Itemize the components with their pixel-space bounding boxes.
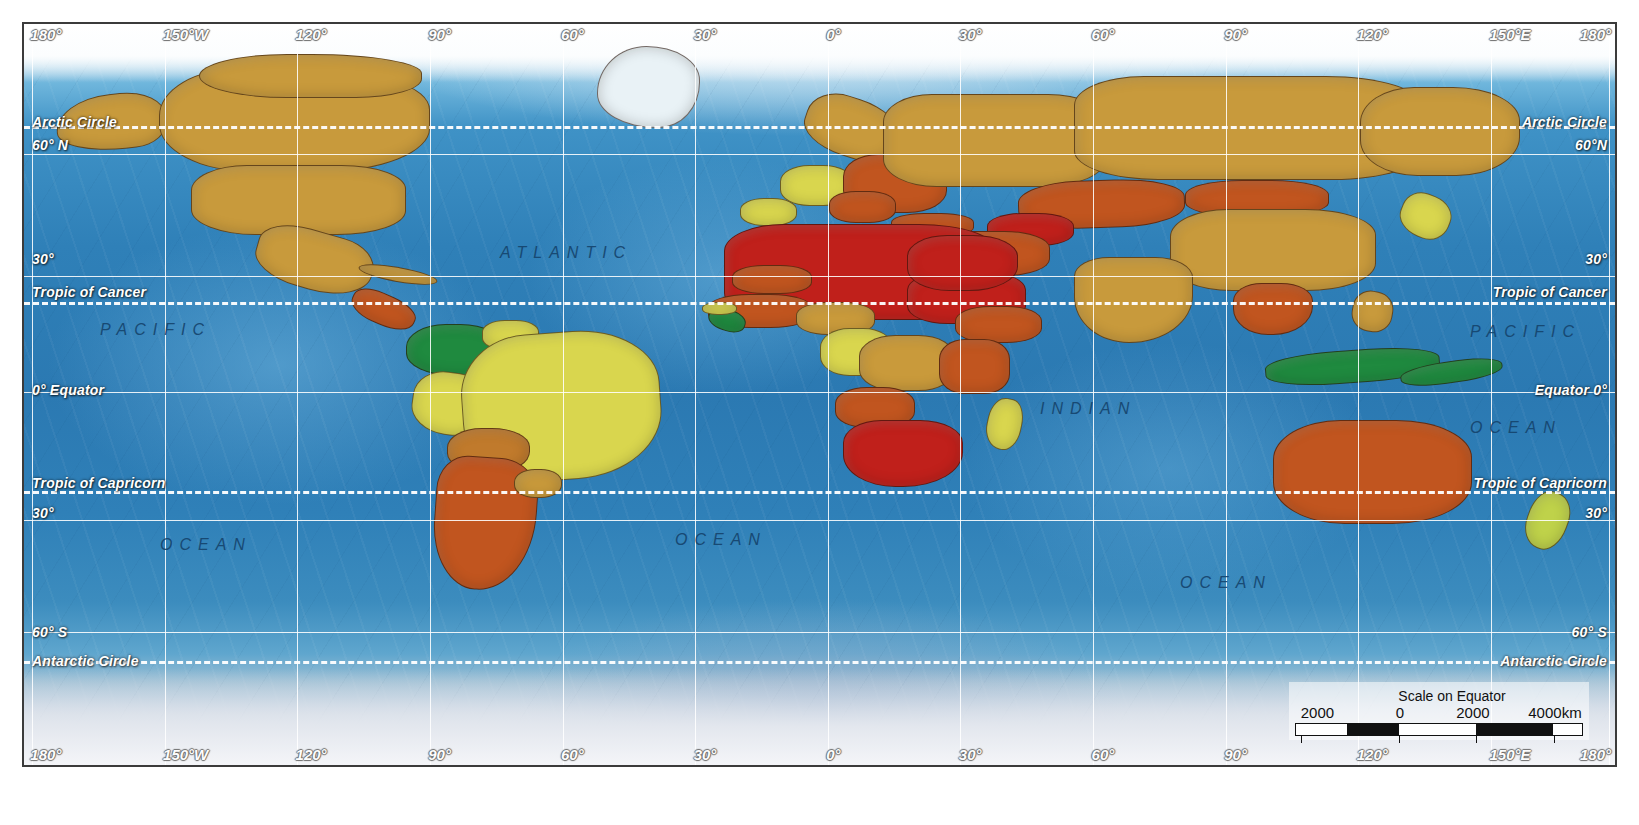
scale-bar-segment-2 (1399, 724, 1476, 735)
map-frame[interactable]: Arctic Circle60° N30°Tropic of Cancer0° … (22, 22, 1617, 767)
ocean-label-ocean-5: OCEAN (1180, 574, 1272, 592)
scale-bar-segment-1 (1347, 724, 1398, 735)
ocean-label-ocean-3: OCEAN (675, 531, 767, 549)
scale-bar-segment-4 (1553, 724, 1582, 735)
world-map-page: Arctic Circle60° N30°Tropic of Cancer0° … (0, 0, 1639, 825)
ocean-label-indian-4: INDIAN (1040, 400, 1136, 418)
scale-bar-tick-0 (1301, 736, 1302, 743)
scale-bar-segment-0 (1296, 724, 1347, 735)
ocean-label-ocean-7: OCEAN (1470, 419, 1562, 437)
ocean-label-pacific-6: PACIFIC (1470, 323, 1581, 341)
scale-bar-label-0: 2000 (1301, 704, 1334, 721)
scale-bar-labels: 2000020004000km (1295, 704, 1583, 723)
scale-bar-label-3: 4000km (1528, 704, 1581, 721)
ocean-label-atlantic-0: ATLANTIC (500, 244, 632, 262)
scale-bar-tick-1 (1399, 736, 1400, 743)
scale-bar-ticks (1295, 736, 1583, 743)
ocean-label-ocean-2: OCEAN (160, 536, 252, 554)
ocean-label-pacific-1: PACIFIC (100, 321, 211, 339)
scale-bar-label-2: 2000 (1456, 704, 1489, 721)
scale-bar-title: Scale on Equator (1295, 688, 1583, 704)
scale-bar-tick-3 (1554, 736, 1555, 743)
scale-bar-label-1: 0 (1396, 704, 1404, 721)
scale-bar-tick-2 (1476, 736, 1477, 743)
scale-bar-track (1295, 723, 1583, 736)
scale-bar: Scale on Equator 2000020004000km (1289, 682, 1589, 740)
scale-bar-segment-3 (1476, 724, 1553, 735)
ocean-name-labels: ATLANTICPACIFICOCEANOCEANINDIANOCEANPACI… (24, 24, 1615, 765)
